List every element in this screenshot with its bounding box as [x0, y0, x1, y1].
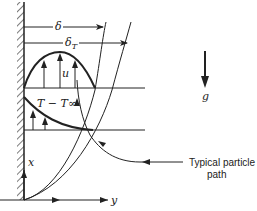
velocity-label: u — [62, 67, 69, 80]
svg-text:Typical particle: Typical particle — [189, 157, 256, 168]
svg-text:path: path — [207, 169, 226, 180]
particle-path — [74, 80, 183, 165]
boundary-layer-diagram: y x δ δT u T − T∞ — [0, 0, 257, 211]
wall — [17, 2, 24, 200]
temperature-label: T − T∞ — [37, 97, 77, 110]
velocity-profile: u — [24, 52, 145, 88]
y-axis-label: y — [110, 194, 118, 207]
gravity-arrow: g — [201, 51, 209, 103]
delta-label: δ — [55, 20, 62, 33]
temperature-profile: T − T∞ — [24, 97, 145, 130]
delta-t-dimension: δT — [24, 36, 127, 51]
gravity-label: g — [202, 90, 209, 103]
x-axis-label: x — [28, 156, 35, 169]
particle-path-label: Typical particle path — [189, 157, 256, 180]
delta-dimension: δ — [24, 20, 103, 33]
